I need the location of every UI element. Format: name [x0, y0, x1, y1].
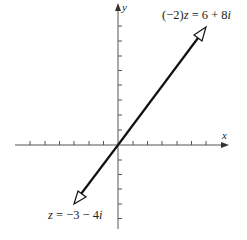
y-axis-label: y [121, 1, 127, 13]
y-axis: y [115, 1, 127, 229]
complex-plane-diagram: x y (−2)z = 6 + 8i z = [0, 0, 247, 240]
label-z: z = −3 − 4i [47, 208, 103, 222]
vector-neg2z [118, 27, 206, 145]
vector-z [74, 145, 118, 204]
x-axis-arrow-icon [221, 142, 229, 148]
y-axis-arrow-icon [115, 3, 121, 11]
open-arrowhead-icon [74, 191, 86, 204]
open-arrowhead-icon [194, 27, 206, 41]
x-axis-label: x [221, 129, 227, 141]
label-neg2z: (−2)z = 6 + 8i [162, 8, 232, 22]
y-axis-ticks [118, 26, 122, 219]
